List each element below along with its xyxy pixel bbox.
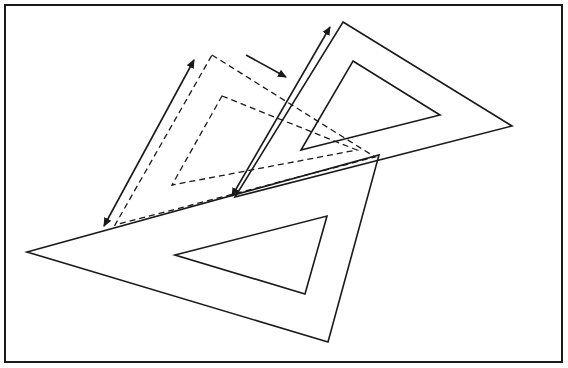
upper-setsquare-previous-position bbox=[115, 55, 375, 225]
diagram-canvas bbox=[0, 0, 568, 368]
lower-setsquare bbox=[27, 155, 379, 342]
upper-outer-triangle bbox=[235, 22, 512, 197]
setsquare-diagram bbox=[0, 0, 568, 368]
motion-arrows bbox=[104, 27, 330, 226]
double-arrow-left-icon bbox=[104, 60, 194, 226]
diagram-frame bbox=[5, 5, 562, 362]
upper-setsquare-current-position bbox=[235, 22, 512, 197]
upper-inner-triangle bbox=[301, 61, 440, 150]
dashed-outer-triangle bbox=[115, 55, 375, 225]
lower-inner-triangle bbox=[175, 216, 327, 294]
direction-arrow-icon bbox=[246, 55, 286, 77]
double-arrow-right-icon bbox=[232, 27, 330, 196]
